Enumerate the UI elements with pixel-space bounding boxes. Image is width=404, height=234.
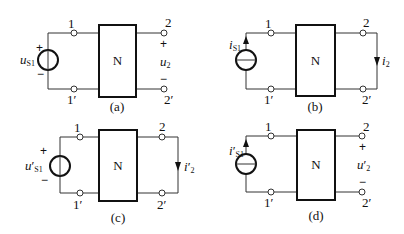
wire-d-bottom-left <box>246 174 268 192</box>
terminal-2-prime-label: 2′ <box>164 92 174 107</box>
source-label: i′S1 <box>229 143 244 159</box>
figure-b: N 1 1′ 2 2′ iS1 i2 (b) <box>229 15 390 114</box>
network-label: N <box>311 53 321 68</box>
output-minus-sign: − <box>359 175 366 189</box>
current-arrow-icon <box>175 162 181 171</box>
terminal-2-prime-label: 2′ <box>157 197 167 212</box>
terminal-2-label: 2 <box>165 15 172 30</box>
terminal-2 <box>159 134 165 140</box>
terminal-1-label: 1 <box>68 16 75 31</box>
wire-a-bottom-left <box>48 70 71 89</box>
voltage-source-icon <box>50 156 70 176</box>
source-minus-sign: − <box>37 67 44 81</box>
terminal-2 <box>161 30 167 36</box>
terminal-1-prime-label: 1′ <box>264 92 274 107</box>
figure-caption: (b) <box>307 99 322 114</box>
wire-d-top-left <box>246 136 268 154</box>
terminal-1-label: 1 <box>265 119 272 134</box>
wire-c-top-left <box>60 137 77 156</box>
terminal-1-prime <box>77 190 83 196</box>
terminal-2-label: 2 <box>159 119 166 134</box>
network-label: N <box>113 158 123 173</box>
terminal-2-label: 2 <box>363 15 370 30</box>
terminal-1-prime-label: 1′ <box>67 92 77 107</box>
terminal-1-prime-label: 1′ <box>264 195 274 210</box>
terminal-2-prime-label: 2′ <box>362 195 372 210</box>
terminal-2-label: 2 <box>363 119 370 134</box>
circuit-diagrams: N 1 1′ 2 2′ + − uS1 + − u2 (a) N <box>0 0 404 234</box>
terminal-2 <box>360 30 366 36</box>
source-label: u′S1 <box>25 158 43 174</box>
source-label: iS1 <box>229 37 241 53</box>
figure-a: N 1 1′ 2 2′ + − uS1 + − u2 (a) <box>20 15 174 114</box>
output-label: i′2 <box>184 159 194 175</box>
network-label: N <box>311 157 321 172</box>
figure-c: N 1 1′ 2 2′ + − u′S1 i′2 (c) <box>25 119 194 225</box>
terminal-1-prime-label: 1′ <box>73 197 83 212</box>
output-minus-sign: − <box>160 72 167 86</box>
output-plus-sign: + <box>160 37 167 51</box>
source-plus-sign: + <box>36 41 43 55</box>
terminal-1-label: 1 <box>74 120 81 135</box>
terminal-2-prime <box>159 190 165 196</box>
figure-d: N 1 1′ 2 2′ + − i′S1 u′2 (d) <box>229 119 372 223</box>
figure-caption: (d) <box>308 208 323 223</box>
output-label: i2 <box>382 53 390 69</box>
terminal-1-label: 1 <box>265 16 272 31</box>
figure-caption: (c) <box>111 210 125 225</box>
source-label: uS1 <box>20 52 35 68</box>
wire-a-top-left <box>48 33 71 50</box>
figure-caption: (a) <box>110 99 124 114</box>
output-plus-sign: + <box>359 140 366 154</box>
current-source-icon <box>236 36 256 70</box>
output-label: u2 <box>160 54 171 70</box>
network-label: N <box>113 53 123 68</box>
source-minus-sign: − <box>41 173 48 187</box>
output-label: u′2 <box>357 157 370 173</box>
source-plus-sign: + <box>40 144 47 158</box>
wire-c-bottom-left <box>60 176 77 193</box>
current-arrow-icon <box>374 57 380 66</box>
terminal-2-prime-label: 2′ <box>362 92 372 107</box>
wire-b-top-left <box>246 33 268 50</box>
wire-b-bottom-left <box>246 70 268 89</box>
